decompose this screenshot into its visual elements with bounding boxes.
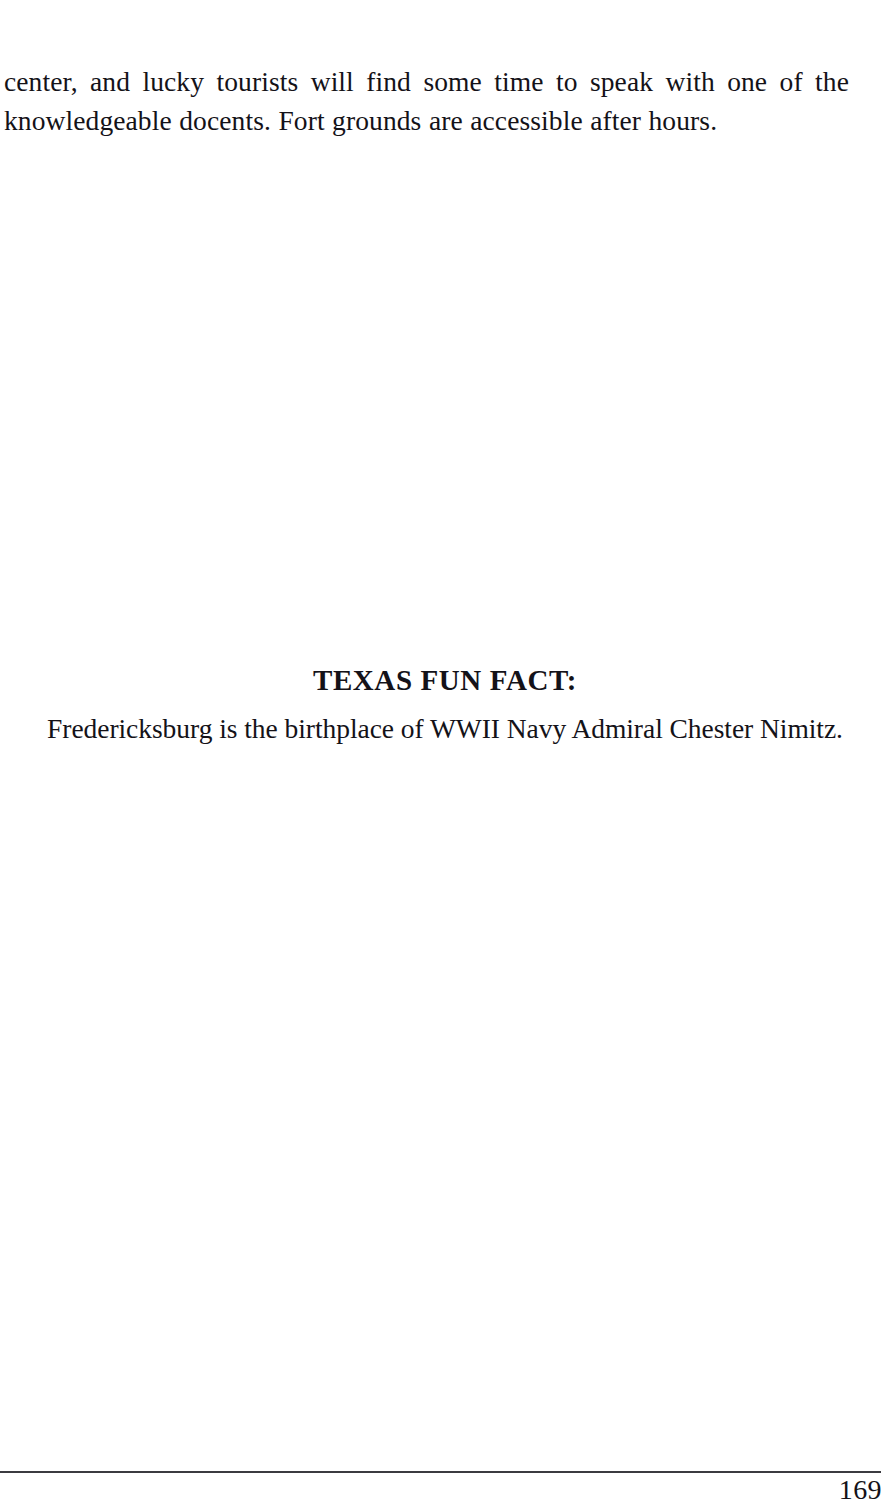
- document-page: center, and lucky tourists will find som…: [0, 0, 890, 1509]
- page-number: 169: [839, 1473, 882, 1507]
- fun-fact-heading: TEXAS FUN FACT:: [0, 663, 890, 697]
- body-paragraph: center, and lucky tourists will find som…: [4, 62, 849, 140]
- footer-divider: [0, 1471, 881, 1473]
- fun-fact-text: Fredericksburg is the birthplace of WWII…: [2, 711, 888, 747]
